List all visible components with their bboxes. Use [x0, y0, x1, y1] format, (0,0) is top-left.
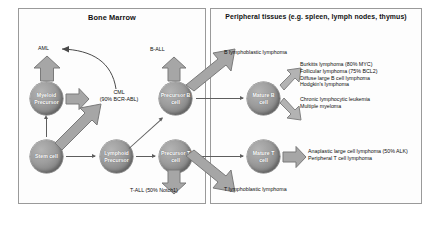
list-b-cell-diseases-group1: Burkitts lymphoma (80% MYC)Follicular ly…	[300, 61, 377, 88]
label-cml-line2: (90% BCR-ABL)	[90, 96, 148, 103]
block-arrow-aml	[33, 56, 61, 82]
label-b-lymphoblastic-lymphoma: B lymphoblastic lymphoma	[224, 49, 287, 56]
disease-b-group2-item-0: Chronic lymphocytic leukemia	[300, 96, 370, 103]
label-aml: AML	[38, 45, 49, 52]
disease-b-group1-item-2: Diffuse large B cell lymphoma	[300, 75, 377, 82]
figure-canvas: Bone Marrow Peripheral tissues (e.g. spl…	[0, 0, 436, 232]
block-arrow-stem-diagonal	[55, 101, 105, 151]
label-t-lymphoblastic-lymphoma: T lymphoblastic lymphoma	[224, 186, 287, 193]
disease-t-item-0: Anaplastic large cell lymphoma (50% ALK)	[308, 148, 408, 155]
label-b-all: B-ALL	[150, 46, 165, 53]
label-cml-line1: CML	[90, 89, 148, 96]
block-arrow-b-all	[161, 57, 187, 82]
list-t-cell-diseases: Anaplastic large cell lymphoma (50% ALK)…	[308, 148, 408, 162]
list-b-cell-diseases-group2: Chronic lymphocytic leukemiaMultiple mye…	[300, 96, 370, 110]
block-arrow-mature-t-diseases	[283, 146, 307, 168]
disease-b-group1-item-3: Hodgkin's lymphoma	[300, 81, 377, 88]
label-t-all: T-ALL (50% Notch1)	[130, 187, 178, 194]
disease-b-group2-item-1: Multiple myeloma	[300, 103, 370, 110]
disease-t-item-1: Peripheral T cell lymphoma	[308, 155, 408, 162]
disease-b-group1-item-1: Follicular lymphoma (75% BCL2)	[300, 68, 377, 75]
disease-b-group1-item-0: Burkitts lymphoma (80% MYC)	[300, 61, 377, 68]
